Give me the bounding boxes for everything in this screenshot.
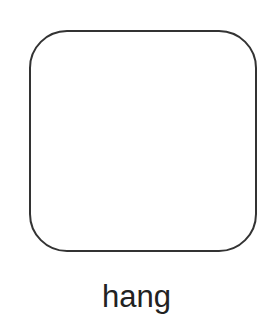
rounded-square-shape	[29, 30, 257, 252]
shape-caption: hang	[0, 279, 273, 315]
